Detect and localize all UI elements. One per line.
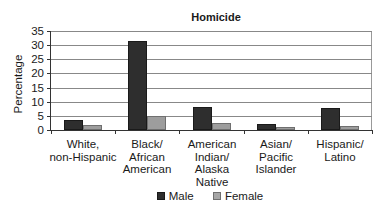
legend-label-female: Female [225,190,263,202]
y-tick-label: 20 [18,67,44,79]
gridline [51,59,372,60]
y-axis [50,31,51,131]
female-swatch-icon [213,192,221,200]
bar-female [147,116,166,130]
legend-item-female: Female [213,190,263,202]
y-tick-label: 35 [18,25,44,37]
x-tick-mark [115,130,116,134]
bar-female [340,126,359,130]
x-axis [48,130,372,131]
bar-female [212,123,231,130]
gridline [51,31,372,32]
bar-male [64,120,83,130]
gridline [51,102,372,103]
male-swatch-icon [157,192,165,200]
bar-male [321,108,340,130]
y-tick-label: 0 [18,124,44,136]
x-tick-mark [51,130,52,134]
x-category-label: American Indian/ Alaska Native [177,138,247,188]
x-tick-mark [179,130,180,134]
y-tick-label: 30 [18,39,44,51]
y-tick-label: 5 [18,110,44,122]
gridline [51,73,372,74]
legend-item-male: Male [157,190,194,202]
x-tick-mark [244,130,245,134]
gridline [51,88,372,89]
x-category-label: White, non-Hispanic [48,138,118,163]
bar-male [128,41,147,130]
y-tick-label: 10 [18,96,44,108]
legend-label-male: Male [169,190,194,202]
x-category-label: Black/ African American [112,138,182,176]
y-tick-label: 15 [18,82,44,94]
x-category-label: Hispanic/ Latino [305,138,375,163]
bar-female [83,125,102,130]
y-tick-label: 25 [18,53,44,65]
chart-title: Homicide [0,11,392,23]
bar-female [276,127,295,130]
legend: Male Female [0,190,392,202]
x-category-label: Asian/ Pacific Islander [241,138,311,176]
bar-male [257,124,276,130]
x-tick-mark [372,130,373,134]
x-tick-mark [308,130,309,134]
gridline [51,45,372,46]
bar-male [193,107,212,130]
